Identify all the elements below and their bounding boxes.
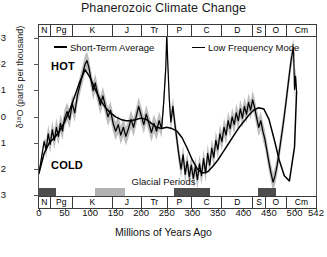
x-tick-mark-1 [65,209,66,212]
y-tick-mark-3 [34,117,38,118]
period-cell-c: C [192,25,223,36]
y-tick-1: 1 [0,137,6,148]
period-band-top: NPgKJTrPCDSOCm [38,24,317,37]
period-cell-j: J [113,25,142,36]
plot-area [38,37,317,196]
y-tick-3: 3 [0,189,6,200]
legend-label-short-term-average: Short-Term Average [70,42,154,53]
y-tick-neg2: -2 [0,58,6,69]
x-tick-mark-0 [39,209,40,212]
x-tick-mark-9 [269,209,270,212]
y-tick-neg1: -1 [0,84,6,95]
period-cell-o: O [266,25,287,36]
period-cell-pg: Pg [51,25,73,36]
climate-chart: Phanerozoic Climate Change NPgKJTrPCDSOC… [0,0,327,257]
y-tick-0: 0 [0,111,6,122]
x-tick-mark-2 [90,209,91,212]
period-cell-p: P [168,25,192,36]
x-tick-mark-5 [167,209,168,212]
period-cell-s: S [253,25,266,36]
x-tick-mark-8 [243,209,244,212]
period-cell-cm: Cm [287,25,316,36]
x-axis-title: Millions of Years Ago [0,226,327,238]
y-tick-mark-6 [34,195,38,196]
x-tick-mark-3 [116,209,117,212]
y-tick-mark-1 [34,64,38,65]
y-tick-mark-2 [34,90,38,91]
y-tick-mark-5 [34,169,38,170]
legend-swatch-short-term-average [54,46,67,48]
y-tick-mark-0 [34,38,38,39]
period-cell-d: D [222,25,253,36]
y-tick-mark-4 [34,143,38,144]
x-tick-mark-10 [295,209,296,212]
cold-annotation: COLD [51,159,83,171]
y-tick-2: 2 [0,163,6,174]
x-tick-mark-7 [218,209,219,212]
legend-swatch-low-frequency-mode [192,47,205,48]
period-cell-tr: Tr [142,25,168,36]
x-tick-mark-4 [141,209,142,212]
legend-item-low-frequency-mode: Low Frequency Mode [192,42,299,53]
period-cell-k: K [73,25,113,36]
y-tick-neg3: -3 [0,32,6,43]
x-tick-mark-6 [192,209,193,212]
y-axis-title: δ¹⁸O (parts per thousand) [15,2,25,152]
legend: Short-Term Average Low Frequency Mode [48,42,310,55]
legend-item-short-term-average: Short-Term Average [54,42,154,53]
legend-label-low-frequency-mode: Low Frequency Mode [208,42,299,53]
page-title: Phanerozoic Climate Change [0,1,327,15]
period-cell-n: N [39,25,51,36]
hot-annotation: HOT [51,60,75,72]
glacial-periods-label: Glacial Periods [0,176,327,187]
x-tick-mark-11 [316,209,317,212]
